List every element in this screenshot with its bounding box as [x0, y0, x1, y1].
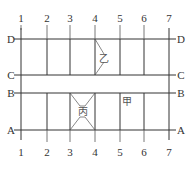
column-label-top-1: 1	[18, 12, 24, 24]
column-label-bottom-6: 6	[141, 146, 147, 158]
column-labels-top: 1 2 3 4 5 6 7	[18, 12, 172, 24]
column-label-top-7: 7	[166, 12, 172, 24]
row-label-left-D: D	[7, 33, 15, 45]
column-label-top-5: 5	[117, 12, 123, 24]
region-jia: 甲	[122, 96, 132, 107]
region-bing: 丙	[70, 93, 95, 130]
row-label-right-A: A	[177, 124, 185, 136]
row-label-right-C: C	[177, 69, 184, 81]
floor-plan-diagram: 1 2 3 4 5 6 7 1 2 3 4 5 6 7 D C B A D C …	[0, 0, 189, 169]
row-label-right-D: D	[177, 33, 185, 45]
column-label-top-4: 4	[92, 12, 98, 24]
column-labels-bottom: 1 2 3 4 5 6 7	[18, 146, 172, 158]
column-label-top-3: 3	[67, 12, 73, 24]
row-label-left-B: B	[7, 87, 14, 99]
axis-ticks	[21, 25, 144, 142]
column-label-bottom-5: 5	[117, 146, 123, 158]
row-labels-left: D C B A	[7, 33, 15, 136]
bing-marker-lower	[70, 117, 95, 130]
column-label-bottom-4: 4	[92, 146, 98, 158]
row-label-left-A: A	[7, 124, 15, 136]
yi-marker-lines	[95, 39, 104, 54]
row-label-right-B: B	[177, 87, 184, 99]
column-label-top-6: 6	[141, 12, 147, 24]
column-label-top-2: 2	[44, 12, 50, 24]
region-label-jia: 甲	[122, 96, 132, 107]
row-label-left-C: C	[7, 69, 14, 81]
column-label-bottom-3: 3	[67, 146, 73, 158]
row-labels-right: D C B A	[177, 33, 185, 136]
region-yi: 乙	[95, 39, 109, 75]
column-label-bottom-7: 7	[166, 146, 172, 158]
region-label-bing: 丙	[78, 106, 88, 117]
vertical-grid-lines	[21, 28, 169, 140]
bing-marker-upper	[70, 93, 95, 106]
region-label-yi: 乙	[99, 53, 109, 64]
column-label-bottom-1: 1	[18, 146, 24, 158]
column-label-bottom-2: 2	[44, 146, 50, 158]
